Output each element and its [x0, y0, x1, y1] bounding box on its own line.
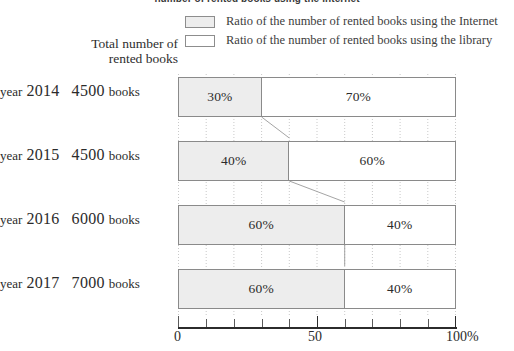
x-axis-label-max: 100% — [446, 329, 479, 345]
row-year-2015: 2015 — [26, 146, 59, 163]
x-axis-tick-60 — [345, 319, 346, 327]
x-axis-label-mid: 50 — [308, 329, 322, 345]
row-unit-2017: books — [109, 276, 140, 291]
bar-2015: 40% 60% — [178, 141, 456, 181]
row-label-2017: year 2017 7000 books — [0, 274, 178, 292]
x-axis-tick-20 — [234, 319, 235, 327]
row-year-word-2014: year — [0, 84, 22, 99]
x-axis-tick-0 — [178, 316, 179, 327]
x-axis-label-min: 0 — [174, 329, 181, 345]
bar-segment-library-2014: 70% — [262, 78, 455, 116]
row-total-2014: 4500 — [72, 82, 105, 99]
x-axis-tick-100 — [455, 316, 456, 327]
x-axis-tick-90 — [428, 319, 429, 327]
row-unit-2014: books — [109, 84, 140, 99]
row-label-2016: year 2016 6000 books — [0, 210, 178, 228]
row-year-word-2015: year — [0, 148, 22, 163]
bar-segment-internet-2016: 60% — [179, 206, 345, 244]
bar-2016: 60% 40% — [178, 205, 456, 245]
bar-segment-library-2017: 40% — [345, 270, 455, 308]
row-year-2016: 2016 — [26, 210, 59, 227]
row-label-2015: year 2015 4500 books — [0, 146, 178, 164]
x-axis-tick-50 — [317, 316, 318, 327]
x-axis-tick-30 — [262, 319, 263, 327]
bar-segment-internet-2017: 60% — [179, 270, 345, 308]
row-unit-2016: books — [109, 212, 140, 227]
chart-page: number of rented books using the Interne… — [0, 0, 514, 351]
bar-segment-library-2015: 60% — [289, 142, 455, 180]
bar-2017: 60% 40% — [178, 269, 456, 309]
row-unit-2015: books — [109, 148, 140, 163]
row-total-2015: 4500 — [72, 146, 105, 163]
row-year-2014: 2014 — [26, 82, 59, 99]
chart-plot-area: year 2014 4500 books 30% 70% year 2015 4… — [0, 0, 514, 351]
x-axis-tick-70 — [372, 319, 373, 327]
row-year-2017: 2017 — [26, 274, 59, 291]
row-year-word-2017: year — [0, 276, 22, 291]
row-total-2017: 7000 — [72, 274, 105, 291]
row-year-word-2016: year — [0, 212, 22, 227]
bar-segment-internet-2014: 30% — [179, 78, 262, 116]
x-axis-tick-10 — [206, 319, 207, 327]
bar-segment-library-2016: 40% — [345, 206, 455, 244]
bar-2014: 30% 70% — [178, 77, 456, 117]
row-label-2014: year 2014 4500 books — [0, 82, 178, 100]
x-axis-tick-40 — [289, 319, 290, 327]
bar-segment-internet-2015: 40% — [179, 142, 289, 180]
row-total-2016: 6000 — [72, 210, 105, 227]
x-axis-tick-80 — [400, 319, 401, 327]
